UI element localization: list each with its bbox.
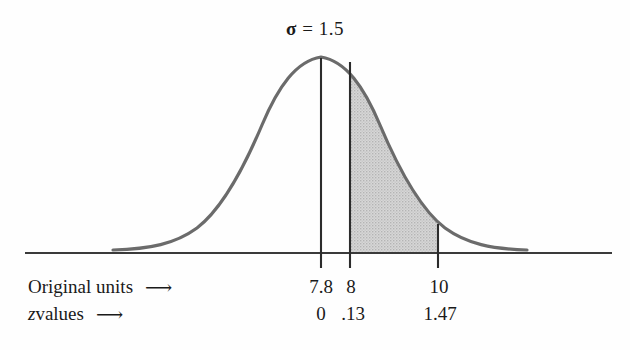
z-values-row: z values ⟶	[28, 303, 122, 325]
tick-z-1-47: 1.47	[423, 303, 456, 325]
arrow-right-icon: ⟶	[145, 278, 171, 297]
tick-z-0: 0	[316, 303, 326, 325]
z-symbol: z	[28, 303, 35, 325]
tick-original-7-8: 7.8	[309, 276, 333, 298]
tick-original-8: 8	[346, 276, 356, 298]
arrow-right-icon: ⟶	[96, 305, 122, 324]
z-values-label: values	[35, 303, 84, 325]
tick-original-10: 10	[430, 276, 449, 298]
original-units-label: Original units	[28, 276, 133, 298]
figure-canvas: σ = 1.5 Original units ⟶ z values ⟶ 7.8 …	[0, 0, 630, 350]
tick-z-0-13: .13	[341, 303, 365, 325]
shaded-region	[350, 50, 438, 253]
original-units-row: Original units ⟶	[28, 276, 171, 298]
